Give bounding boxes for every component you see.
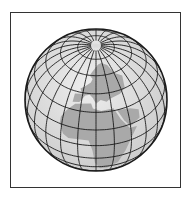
globe-illustration [0,0,185,203]
north-pole-highlight [91,41,101,51]
